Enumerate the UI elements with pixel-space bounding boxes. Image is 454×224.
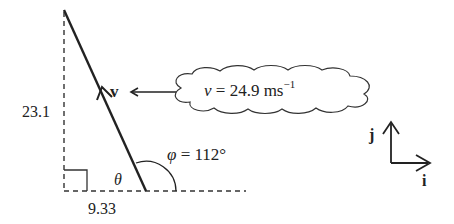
- i-unit-label: i: [422, 172, 427, 189]
- vertical-component-label: 23.1: [22, 103, 50, 120]
- vector-label: v: [110, 82, 119, 101]
- speed-label: v = 24.9 ms−1: [204, 78, 295, 100]
- horizontal-component-label: 9.33: [88, 200, 116, 217]
- velocity-vector-diagram: v = 24.9 ms−1 v 23.1 9.33 θ φ = 112° j i: [0, 0, 454, 224]
- theta-label: θ: [114, 171, 122, 188]
- phi-label: φ = 112°: [167, 145, 226, 164]
- phi-angle-arc: [136, 161, 176, 191]
- unit-vector-axes: [383, 122, 430, 171]
- j-unit-label: j: [368, 126, 374, 144]
- right-angle-marker: [64, 170, 87, 191]
- velocity-vector-line: [64, 10, 146, 191]
